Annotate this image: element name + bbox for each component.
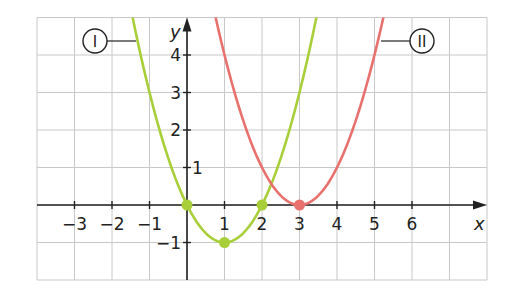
x-tick-label: 6 bbox=[407, 214, 418, 234]
marked-points bbox=[182, 200, 306, 249]
parabola-chart: −3−2−11234564321−1 y x I II bbox=[0, 0, 513, 294]
curve-1-label: I bbox=[93, 33, 97, 51]
grid bbox=[37, 18, 487, 281]
x-tick-label: 3 bbox=[294, 214, 305, 234]
x-tick-label: 2 bbox=[257, 214, 268, 234]
y-tick-label: 2 bbox=[170, 120, 181, 140]
x-tick-label: −3 bbox=[62, 214, 87, 234]
curve-2-badge: II bbox=[381, 29, 434, 53]
x-tick-label: 4 bbox=[332, 214, 343, 234]
curve-2-label: II bbox=[418, 33, 427, 51]
marked-point bbox=[294, 200, 305, 211]
marked-point bbox=[219, 237, 230, 248]
marked-point bbox=[257, 200, 268, 211]
y-tick-label: 4 bbox=[170, 45, 181, 65]
x-tick-label: −1 bbox=[137, 214, 162, 234]
x-tick-label: 1 bbox=[219, 214, 230, 234]
x-axis-label: x bbox=[473, 213, 485, 234]
x-tick-label: 5 bbox=[369, 214, 380, 234]
tick-labels: −3−2−11234564321−1 bbox=[62, 45, 417, 253]
y-tick-label: 3 bbox=[170, 83, 181, 103]
y-axis-label: y bbox=[169, 21, 181, 42]
curve-1-badge: I bbox=[83, 29, 136, 53]
y-tick-label: 1 bbox=[192, 158, 203, 178]
marked-point bbox=[182, 200, 193, 211]
y-tick-label: −1 bbox=[156, 233, 181, 253]
x-tick-label: −2 bbox=[99, 214, 124, 234]
